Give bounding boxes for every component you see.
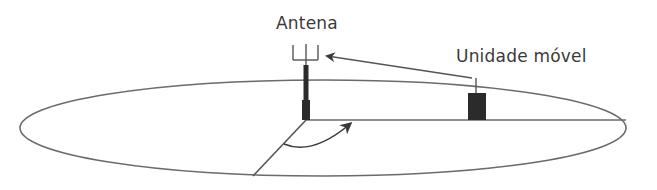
mobile-unit-icon bbox=[468, 93, 486, 120]
antenna-label: Antena bbox=[276, 13, 338, 33]
mobile-unit-label: Unidade móvel bbox=[456, 46, 587, 66]
antenna-diagram: Antena Unidade móvel bbox=[0, 0, 657, 190]
antenna-mast-icon bbox=[302, 65, 310, 120]
ground-plane-ellipse bbox=[20, 80, 626, 176]
antenna-fork-icon bbox=[293, 44, 318, 66]
azimuth-angle-arrow bbox=[284, 124, 350, 147]
signal-arrow bbox=[327, 56, 472, 78]
